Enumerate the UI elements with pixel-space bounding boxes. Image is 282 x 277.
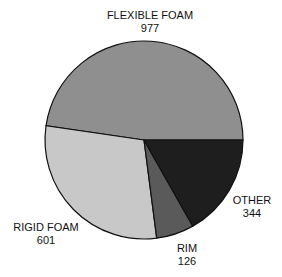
pie-slice-flexible-foam <box>46 41 243 140</box>
label-name: RIGID FOAM <box>8 221 84 234</box>
label-value: 126 <box>172 255 202 268</box>
label-rigid-foam: RIGID FOAM 601 <box>8 221 84 247</box>
label-name: RIM <box>172 242 202 255</box>
label-value: 601 <box>8 234 84 247</box>
label-name: OTHER <box>232 194 272 207</box>
label-other: OTHER 344 <box>232 194 272 220</box>
label-name: FLEXIBLE FOAM <box>100 9 200 22</box>
label-value: 344 <box>232 207 272 220</box>
label-rim: RIM 126 <box>172 242 202 268</box>
label-flexible-foam: FLEXIBLE FOAM 977 <box>100 9 200 35</box>
label-value: 977 <box>100 22 200 35</box>
